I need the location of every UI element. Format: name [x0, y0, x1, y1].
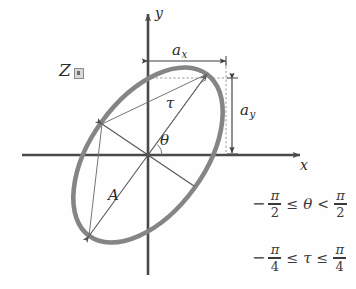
z-subscript-box-icon: [74, 68, 84, 79]
tau-chord-top: [102, 74, 207, 124]
tau-minus-sign: −: [252, 248, 265, 267]
tau-right-fraction: π 4: [333, 243, 346, 273]
tau-relation-left: ≤: [286, 250, 298, 266]
semi-axis-x-subscript: x: [181, 49, 187, 60]
theta-variable: θ: [303, 195, 312, 213]
tau-right-denominator: 4: [334, 259, 346, 273]
constraint-theta-range: − π 2 ≤ θ < π 2: [252, 189, 348, 219]
semi-axis-y-label: ay: [240, 103, 255, 120]
theta-relation-right: <: [317, 196, 329, 212]
tau-left-numerator: π: [269, 243, 282, 257]
y-axis-label: y: [155, 6, 163, 20]
x-axis-label: x: [300, 158, 308, 172]
z-label-text: Z: [59, 60, 71, 80]
tau-left-denominator: 4: [269, 259, 281, 273]
semi-axis-y-subscript: y: [249, 109, 255, 120]
theta-label: θ: [160, 133, 169, 148]
tau-label: τ: [166, 96, 174, 111]
figure-canvas: x y Z ax ay A τ θ − π 2 ≤ θ < π 2 − π: [0, 0, 356, 289]
theta-right-numerator: π: [334, 189, 347, 203]
theta-ray: [148, 74, 207, 155]
semi-axis-x-letter: a: [172, 41, 181, 59]
semi-axis-y-letter: a: [240, 101, 249, 119]
theta-minus-sign: −: [252, 194, 265, 213]
amplitude-label-A: A: [108, 188, 119, 203]
theta-left-numerator: π: [269, 189, 282, 203]
theta-right-denominator: 2: [334, 205, 346, 219]
z-label: Z: [59, 62, 84, 79]
semi-axis-x-label: ax: [172, 43, 187, 60]
theta-left-fraction: π 2: [268, 189, 281, 219]
theta-relation-left: ≤: [286, 196, 298, 212]
tau-variable: τ: [303, 249, 311, 267]
constraint-tau-range: − π 4 ≤ τ ≤ π 4: [252, 243, 347, 273]
theta-right-fraction: π 2: [334, 189, 347, 219]
tau-left-fraction: π 4: [268, 243, 281, 273]
tau-right-numerator: π: [333, 243, 346, 257]
theta-left-denominator: 2: [269, 205, 281, 219]
tau-relation-right: ≤: [316, 250, 328, 266]
